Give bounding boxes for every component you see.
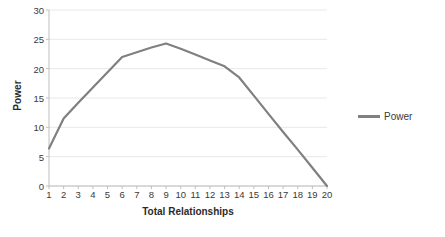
x-tick-label-6: 6 [120, 189, 125, 200]
x-tick-label-5: 5 [105, 189, 110, 200]
y-tick-label-0: 0 [24, 181, 44, 192]
x-tick-label-12: 12 [205, 189, 216, 200]
x-tick-label-18: 18 [292, 189, 303, 200]
x-tick-label-11: 11 [190, 189, 200, 200]
plot-area [49, 10, 327, 186]
plot-svg [49, 10, 327, 186]
y-tick-label-25: 25 [24, 34, 44, 45]
y-tick-label-30: 30 [24, 5, 44, 16]
x-tick-label-1: 1 [46, 189, 51, 200]
x-tick-label-13: 13 [219, 189, 230, 200]
x-tick-label-16: 16 [263, 189, 274, 200]
x-tick-label-14: 14 [234, 189, 245, 200]
x-tick-label-2: 2 [61, 189, 66, 200]
x-axis-tick-labels: 1234567891011121314151617181920 [49, 189, 327, 203]
series-lines [49, 43, 327, 186]
y-tick-label-5: 5 [24, 151, 44, 162]
gridlines [49, 10, 327, 186]
y-axis-title-label: Power [12, 80, 23, 111]
y-axis-tick-labels: 051015202530 [24, 10, 44, 186]
x-tick-label-19: 19 [307, 189, 318, 200]
chart-legend: Power [358, 111, 412, 122]
x-tick-label-17: 17 [278, 189, 289, 200]
x-tick-label-20: 20 [322, 189, 333, 200]
x-tick-label-4: 4 [90, 189, 95, 200]
x-tick-label-7: 7 [134, 189, 139, 200]
x-axis-title: Total Relationships [49, 206, 327, 217]
y-tick-label-15: 15 [24, 93, 44, 104]
x-tick-label-8: 8 [149, 189, 154, 200]
line-chart: Power 051015202530 123456789101112131415… [0, 0, 445, 237]
x-tick-label-15: 15 [249, 189, 260, 200]
x-tick-label-10: 10 [175, 189, 186, 200]
x-tick-label-3: 3 [76, 189, 81, 200]
x-tick-label-9: 9 [163, 189, 168, 200]
legend-label-power: Power [384, 111, 412, 122]
y-tick-label-10: 10 [24, 122, 44, 133]
legend-line-swatch-power [358, 115, 380, 118]
y-tick-label-20: 20 [24, 63, 44, 74]
series-line-power [49, 43, 327, 186]
